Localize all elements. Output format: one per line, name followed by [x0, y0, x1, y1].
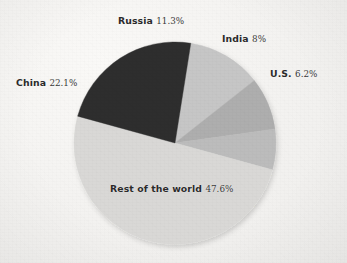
- slice-label-china-name: China: [16, 77, 46, 88]
- slice-label-rest-of-the-world-name: Rest of the world: [110, 183, 202, 194]
- slice-label-us-value: 6.2%: [295, 69, 317, 79]
- slice-label-rest-of-the-world-value: 47.6%: [205, 184, 233, 194]
- pie-slices-group: [74, 42, 276, 244]
- slice-label-us-name: U.S.: [270, 68, 292, 79]
- chart-plot-area: Russia 11.3% India 8% U.S. 6.2% China 22…: [0, 0, 347, 263]
- slice-label-china-value: 22.1%: [49, 78, 77, 88]
- slice-label-rest-of-the-world: Rest of the world 47.6%: [110, 183, 233, 194]
- slice-label-russia: Russia 11.3%: [118, 15, 184, 26]
- pie-chart-figure: Russia 11.3% India 8% U.S. 6.2% China 22…: [0, 0, 347, 263]
- slice-label-india-value: 8%: [252, 34, 266, 44]
- slice-label-us: U.S. 6.2%: [270, 68, 317, 79]
- slice-label-russia-name: Russia: [118, 15, 153, 26]
- slice-label-china: China 22.1%: [16, 77, 77, 88]
- slice-label-india: India 8%: [222, 33, 266, 44]
- slice-label-russia-value: 11.3%: [156, 16, 184, 26]
- pie-chart-svg: [0, 0, 347, 263]
- slice-label-india-name: India: [222, 33, 249, 44]
